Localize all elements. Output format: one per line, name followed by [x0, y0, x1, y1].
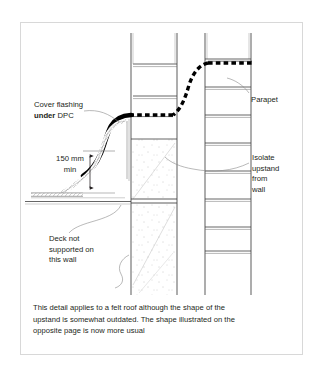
caption-line-3: opposite page is now more usual [33, 325, 290, 337]
annotation-dimension-150mm: 150 mm min [41, 154, 99, 175]
annotation-cover-flashing: Cover flashing under DPC [34, 100, 83, 121]
annotation-isolate-line3: from [252, 174, 279, 185]
parapet-wall [205, 33, 251, 295]
annotation-isolate-line4: wall [252, 185, 279, 196]
annotation-cover-flashing-dpc: DPC [55, 111, 73, 120]
annotation-parapet-label: Parapet [251, 95, 278, 106]
annotation-deck-line3: this wall [49, 255, 94, 266]
figure-caption: This detail applies to a felt roof altho… [21, 297, 302, 355]
annotation-cover-flashing-under: under [34, 111, 55, 120]
inner-leaf-wall [131, 33, 177, 295]
annotation-dimension-qualifier: min [41, 165, 99, 176]
annotation-deck-line1: Deck not [49, 234, 94, 245]
annotation-isolate-line1: Isolate [252, 153, 279, 164]
annotation-dimension-value: 150 mm [41, 154, 99, 165]
annotation-cover-flashing-line1: Cover flashing [34, 100, 83, 111]
figure-card: Cover flashing under DPC 150 mm min Deck… [20, 22, 303, 355]
caption-line-1: This detail applies to a felt roof altho… [33, 302, 290, 314]
roof-deck [25, 193, 131, 204]
annotation-isolate-line2: upstand [252, 164, 279, 175]
annotation-deck-not-supported: Deck not supported on this wall [49, 234, 94, 266]
annotation-cover-flashing-line2: under DPC [34, 111, 83, 122]
annotation-parapet: Parapet [251, 95, 278, 106]
annotation-deck-line2: supported on [49, 245, 94, 256]
dpc-membrane [131, 61, 252, 116]
annotation-isolate-upstand: Isolate upstand from wall [252, 153, 279, 195]
caption-line-2: upstand is somewhat outdated. The shape … [33, 314, 290, 326]
